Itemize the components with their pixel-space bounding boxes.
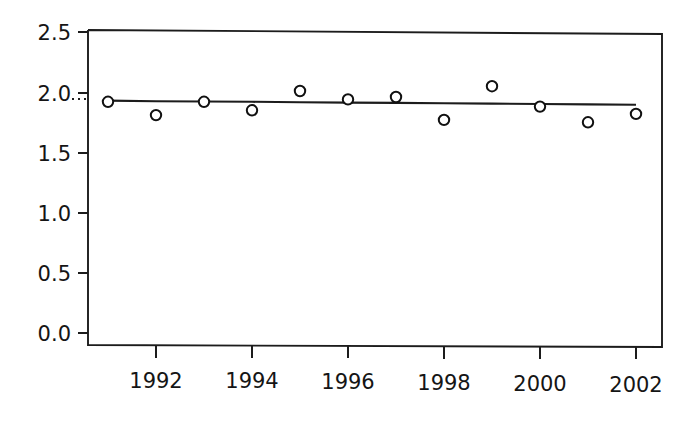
trend-line-series: [108, 101, 636, 105]
y-tick-label-1-0: 1.0: [38, 202, 71, 226]
data-point-marker: [535, 101, 545, 111]
y-tick-label-2-0: 2.0: [38, 82, 71, 106]
y-tick-label-1-5: 1.5: [38, 142, 71, 166]
data-point-marker: [391, 92, 401, 102]
data-point-marker: [343, 94, 353, 104]
data-point-marker: [583, 117, 593, 127]
y-tick-label-0-5: 0.5: [38, 262, 71, 286]
data-point-marker: [439, 115, 449, 125]
x-tick-label-1998: 1998: [417, 371, 470, 395]
y-tick-label-0-0: 0.0: [38, 322, 71, 346]
scatter-plot: 2.5 2.0 1.5 1.0 0.5 0.0 1992 1994 1996 1…: [0, 0, 687, 421]
x-axis-ticks: [156, 346, 636, 359]
chart-container: 2.5 2.0 1.5 1.0 0.5 0.0 1992 1994 1996 1…: [0, 0, 687, 421]
x-tick-label-2000: 2000: [513, 372, 566, 396]
data-point-marker: [151, 110, 161, 120]
y-axis-labels: 2.5 2.0 1.5 1.0 0.5 0.0: [38, 21, 71, 346]
x-tick-label-2002: 2002: [609, 373, 662, 397]
data-point-marker: [295, 86, 305, 96]
data-point-marker: [631, 109, 641, 119]
y-axis-ticks: [78, 32, 88, 333]
x-tick-label-1992: 1992: [129, 369, 182, 393]
plot-frame: [88, 30, 662, 347]
y-tick-label-2-5: 2.5: [38, 21, 71, 45]
data-point-marker: [103, 97, 113, 107]
data-point-marker: [247, 105, 257, 115]
x-axis-labels: 1992 1994 1996 1998 2000 2002: [129, 369, 662, 397]
data-point-marker: [199, 97, 209, 107]
data-point-marker: [487, 81, 497, 91]
x-tick-label-1994: 1994: [225, 369, 278, 393]
x-tick-label-1996: 1996: [321, 370, 374, 394]
